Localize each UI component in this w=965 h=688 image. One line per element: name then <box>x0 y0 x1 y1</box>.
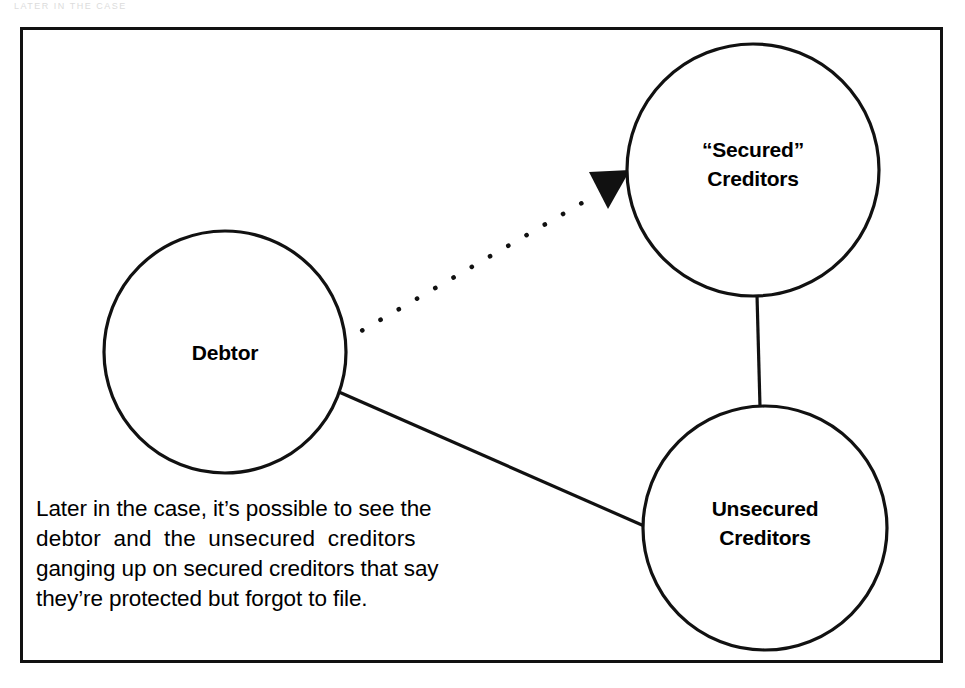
clipped-header-artifact: LATER IN THE CASE <box>14 1 134 11</box>
caption-line-4: they’re protected but forgot to file. <box>36 584 472 614</box>
caption-line-3: ganging up on secured creditors that say <box>36 554 472 584</box>
caption-line-1: Later in the case, it’s possible to see … <box>36 494 472 524</box>
figure-canvas: LATER IN THE CASE Debtor “Secured” Credi… <box>0 0 965 688</box>
caption-line-2: debtor and the unsecured creditors <box>36 524 472 554</box>
figure-caption: Later in the case, it’s possible to see … <box>36 494 472 614</box>
